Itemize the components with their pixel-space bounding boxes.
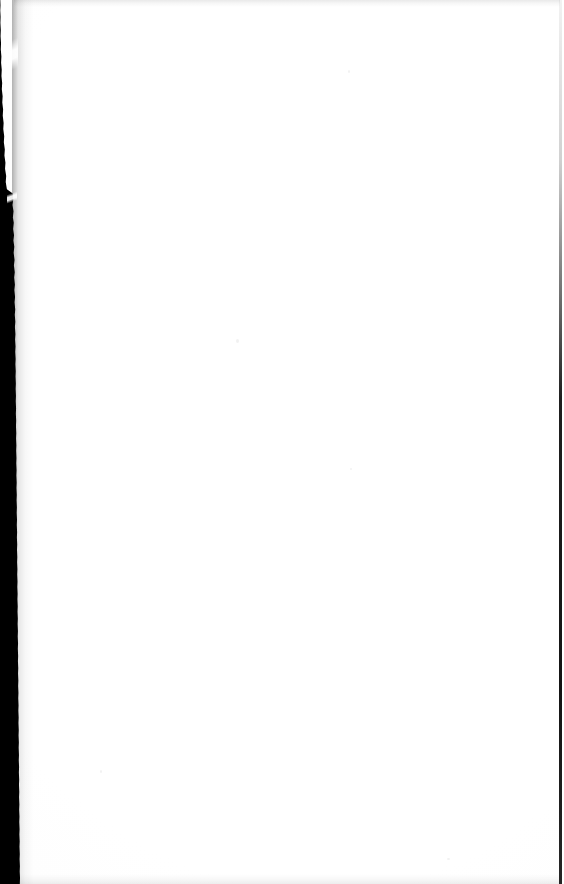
- paper-surface: [0, 0, 564, 884]
- scanned-page: [0, 0, 564, 884]
